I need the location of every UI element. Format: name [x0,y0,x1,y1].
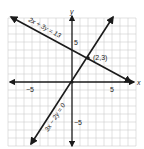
line-2x-plus-3y-eq-13 [11,17,131,82]
coordinate-graph: x y −5 5 5 −5 (2,3) 2x + 3y = 13 3x − 2y… [0,0,144,149]
intersection-point [86,56,90,60]
intersection-label: (2,3) [93,54,107,62]
tick-label-y-neg5: −5 [74,119,82,126]
tick-label-x-pos5: 5 [110,86,114,93]
y-axis-label: y [69,8,74,16]
tick-label-x-neg5: −5 [26,86,34,93]
origin-point [70,80,73,83]
tick-label-y-pos5: 5 [74,39,78,46]
x-axis-label: x [136,79,141,86]
